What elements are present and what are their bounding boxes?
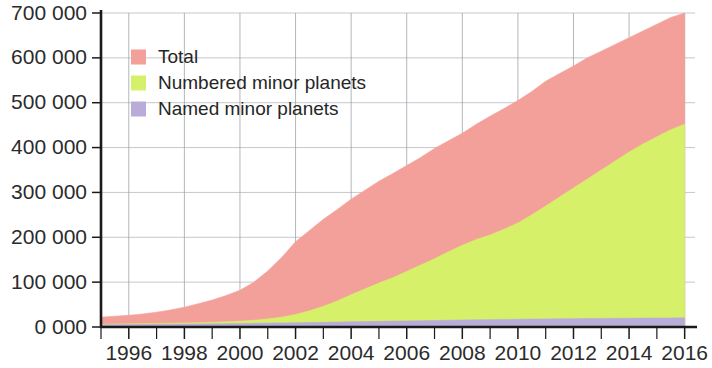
legend-swatch-0 xyxy=(131,50,146,65)
y-axis-label: 200 000 xyxy=(11,225,87,248)
minor-planets-area-chart: 0 000100 000200 000300 000400 000500 000… xyxy=(0,0,712,368)
y-axis-label: 0 000 xyxy=(34,315,87,338)
x-axis-label: 1996 xyxy=(105,341,152,364)
x-axis-label: 2006 xyxy=(383,341,430,364)
x-axis-label: 2002 xyxy=(272,341,319,364)
y-axis-label: 600 000 xyxy=(11,45,87,68)
x-axis-label: 2008 xyxy=(439,341,486,364)
x-axis-tick-labels: 1996199820002002200420062008201020122014… xyxy=(105,341,708,364)
x-axis-label: 2014 xyxy=(606,341,653,364)
x-axis-label: 2004 xyxy=(328,341,375,364)
x-axis-label: 2012 xyxy=(550,341,597,364)
y-axis-label: 300 000 xyxy=(11,180,87,203)
x-axis-label: 2000 xyxy=(217,341,264,364)
y-axis-label: 400 000 xyxy=(11,135,87,158)
x-axis-label: 2010 xyxy=(495,341,542,364)
legend-swatch-1 xyxy=(131,76,146,91)
legend-label-2: Named minor planets xyxy=(158,98,339,119)
y-axis-label: 700 000 xyxy=(11,1,87,24)
chart-plot-area: 0 000100 000200 000300 000400 000500 000… xyxy=(0,0,712,368)
legend-label-1: Numbered minor planets xyxy=(158,72,366,93)
y-axis-label: 100 000 xyxy=(11,270,87,293)
legend-label-0: Total xyxy=(158,46,198,67)
y-axis-label: 500 000 xyxy=(11,90,87,113)
x-axis-label: 1998 xyxy=(161,341,208,364)
legend-swatch-2 xyxy=(131,102,146,117)
x-axis-label: 2016 xyxy=(661,341,708,364)
